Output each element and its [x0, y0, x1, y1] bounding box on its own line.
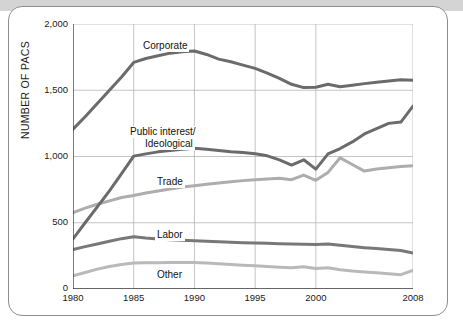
- chart-svg: [73, 24, 413, 289]
- x-tick-labels: 1980 1985 1990 1995 2000 2008: [73, 292, 413, 308]
- series-line-other: [73, 263, 413, 276]
- series-label-other: Other: [155, 269, 184, 281]
- x-tick-2008: 2008: [402, 292, 423, 303]
- series-line-labor: [73, 237, 413, 253]
- x-tick-1990: 1990: [184, 292, 205, 303]
- series-label-public-interest-line2: Ideological: [143, 138, 195, 150]
- x-tick-1980: 1980: [62, 292, 83, 303]
- y-tick-2000: 2,000: [44, 18, 68, 29]
- y-tick-500: 500: [52, 216, 68, 227]
- chart-container: NUMBER OF PACS 2,000 1,500 1,000 500 0 1…: [0, 0, 463, 333]
- y-tick-labels: 2,000 1,500 1,000 500 0: [28, 24, 68, 289]
- series-label-public-interest-line1: Public interest/: [128, 126, 198, 138]
- series-line-public-interest: [73, 106, 413, 239]
- x-tick-1985: 1985: [123, 292, 144, 303]
- x-tick-1995: 1995: [245, 292, 266, 303]
- x-tick-2000: 2000: [305, 292, 326, 303]
- series-label-corporate: Corporate: [141, 40, 189, 52]
- y-tick-1000: 1,000: [44, 150, 68, 161]
- series-line-trade: [73, 158, 413, 213]
- series-label-trade: Trade: [155, 176, 185, 188]
- series-label-labor: Labor: [155, 229, 185, 241]
- plot-area: Corporate Public interest/ Ideological T…: [73, 24, 413, 289]
- y-tick-1500: 1,500: [44, 84, 68, 95]
